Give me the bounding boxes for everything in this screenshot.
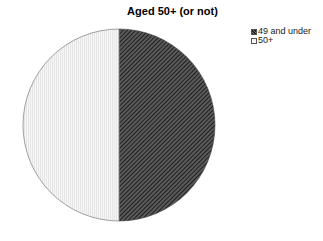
hatched-swatch-icon bbox=[251, 29, 257, 35]
light-swatch-icon bbox=[251, 38, 257, 44]
pie-slice-50-plus bbox=[23, 29, 119, 221]
legend: 49 and under 50+ bbox=[251, 27, 311, 45]
legend-label: 50+ bbox=[258, 36, 273, 45]
legend-item-50-plus: 50+ bbox=[251, 36, 311, 45]
pie-slice-49-and-under bbox=[119, 29, 215, 221]
